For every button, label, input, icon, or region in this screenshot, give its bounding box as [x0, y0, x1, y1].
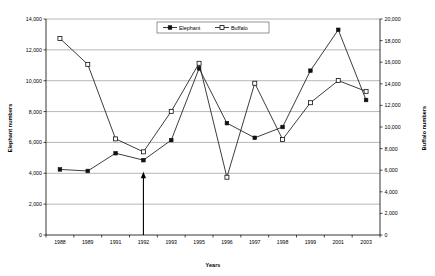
x-tick-label: 1992: [138, 239, 150, 245]
x-axis-title: Years: [206, 262, 221, 268]
x-tick-label: 2001: [332, 239, 344, 245]
datapoint-elephant-1996: [225, 121, 229, 125]
datapoint-buffalo-2003: [364, 89, 368, 93]
left-axis-title: Elephant numbers: [7, 104, 13, 153]
right-tick-label: 20,000: [385, 16, 401, 22]
right-tick-label: 6,000: [385, 167, 398, 173]
left-tick-label: 0: [39, 232, 42, 238]
datapoint-elephant-1993: [169, 138, 173, 142]
left-tick-label: 8,000: [29, 109, 42, 115]
left-tick-label: 12,000: [26, 47, 42, 53]
datapoint-elephant-1988: [58, 168, 62, 172]
x-tick-label: 2003: [360, 239, 372, 245]
right-tick-label: 8,000: [385, 146, 398, 152]
legend-label-buffalo: Buffalo: [231, 25, 248, 31]
x-tick-label: 1995: [193, 239, 205, 245]
x-tick-label: 1998: [277, 239, 289, 245]
datapoint-elephant-1998: [281, 125, 285, 129]
right-tick-label: 12,000: [385, 102, 401, 108]
left-tick-label: 10,000: [26, 78, 42, 84]
right-tick-label: 2,000: [385, 210, 398, 216]
x-tick-label: 1989: [82, 239, 94, 245]
datapoint-elephant-1997: [253, 136, 257, 140]
datapoint-elephant-2003: [364, 98, 368, 102]
datapoint-buffalo-1997: [253, 81, 257, 85]
x-tick-label: 1991: [110, 239, 122, 245]
right-axis-title: Buffalo numbers: [421, 106, 427, 150]
legend-label-elephant: Elephant: [179, 25, 201, 31]
right-tick-label: 0: [385, 232, 388, 238]
right-tick-label: 16,000: [385, 59, 401, 65]
datapoint-elephant-1991: [114, 151, 118, 155]
datapoint-buffalo-1996: [225, 175, 229, 179]
left-tick-label: 4,000: [29, 170, 42, 176]
datapoint-elephant-2001: [336, 28, 340, 32]
x-tick-label: 1996: [221, 239, 233, 245]
legend-marker-buffalo: [220, 26, 224, 30]
datapoint-buffalo-1991: [114, 137, 118, 141]
x-tick-label: 1997: [249, 239, 261, 245]
datapoint-buffalo-1998: [281, 137, 285, 141]
x-tick-label: 1988: [54, 239, 66, 245]
left-tick-label: 2,000: [29, 201, 42, 207]
datapoint-buffalo-1989: [86, 62, 90, 66]
datapoint-buffalo-1995: [197, 61, 201, 65]
left-tick-label: 14,000: [26, 16, 42, 22]
legend-marker-elephant: [168, 26, 172, 30]
chart-legend: ElephantBuffalo: [157, 22, 269, 33]
right-tick-label: 4,000: [385, 189, 398, 195]
x-tick-label: 1993: [165, 239, 177, 245]
datapoint-buffalo-1993: [169, 109, 173, 113]
datapoint-elephant-1989: [86, 169, 90, 173]
chart-container: 02,0004,0006,0008,00010,00012,00014,000 …: [0, 0, 435, 276]
right-tick-label: 14,000: [385, 81, 401, 87]
datapoint-elephant-1992: [142, 158, 146, 162]
x-tick-label: 1999: [305, 239, 317, 245]
datapoint-buffalo-1988: [58, 36, 62, 40]
line-chart: 02,0004,0006,0008,00010,00012,00014,000 …: [0, 0, 435, 276]
datapoint-buffalo-2001: [336, 79, 340, 83]
datapoint-buffalo-1999: [308, 101, 312, 105]
left-tick-label: 6,000: [29, 139, 42, 145]
right-tick-label: 10,000: [385, 124, 401, 130]
right-tick-label: 18,000: [385, 38, 401, 44]
datapoint-buffalo-1992: [141, 150, 145, 154]
datapoint-elephant-1999: [309, 69, 313, 73]
